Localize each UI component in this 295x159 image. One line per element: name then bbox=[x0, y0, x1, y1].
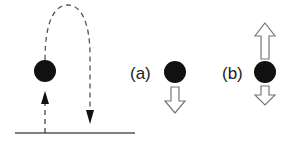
hollow-down-arrow-icon-a bbox=[165, 87, 185, 113]
label-b: (b) bbox=[222, 64, 243, 83]
hollow-down-arrow-icon-b bbox=[255, 86, 275, 105]
up-arrowhead-icon bbox=[41, 91, 49, 104]
ball-b bbox=[254, 61, 276, 83]
arc-trajectory bbox=[45, 5, 90, 110]
down-arrowhead-icon bbox=[86, 110, 94, 124]
ball-a bbox=[164, 61, 186, 83]
ball-trajectory bbox=[34, 60, 56, 82]
label-a: (a) bbox=[130, 64, 151, 83]
hollow-up-arrow-icon-b bbox=[255, 23, 275, 59]
diagram-canvas: (a) (b) bbox=[0, 0, 295, 159]
